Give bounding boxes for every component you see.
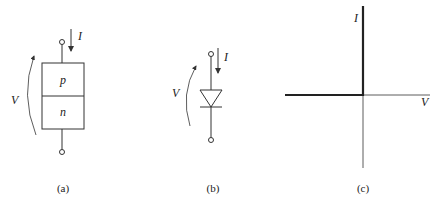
caption-c: (c) <box>357 182 370 195</box>
bottom-terminal-icon <box>209 138 214 143</box>
n-region-label: n <box>60 105 66 119</box>
panel-b-diode-symbol: I V (b) <box>172 48 229 195</box>
y-axis-label: I <box>353 11 359 25</box>
x-axis-label: V <box>421 95 430 109</box>
voltage-arrow-icon <box>186 66 196 126</box>
voltage-label: V <box>172 86 181 100</box>
caption-a: (a) <box>57 182 70 195</box>
current-label: I <box>77 29 83 43</box>
current-label: I <box>223 50 229 64</box>
panel-a-pn-junction: I p n V (a) <box>11 29 84 195</box>
figure-canvas: I p n V (a) I V (b) I V (c) <box>0 0 443 204</box>
voltage-arrow-icon <box>27 56 36 135</box>
caption-b: (b) <box>207 182 220 195</box>
iv-curve <box>285 6 363 95</box>
panel-c-iv-characteristic: I V (c) <box>285 6 430 195</box>
bottom-terminal-icon <box>60 150 65 155</box>
top-terminal-icon <box>209 52 214 57</box>
p-region-label: p <box>59 73 66 87</box>
diode-triangle-icon <box>200 90 222 107</box>
top-terminal-icon <box>60 40 65 45</box>
voltage-label: V <box>11 93 20 107</box>
